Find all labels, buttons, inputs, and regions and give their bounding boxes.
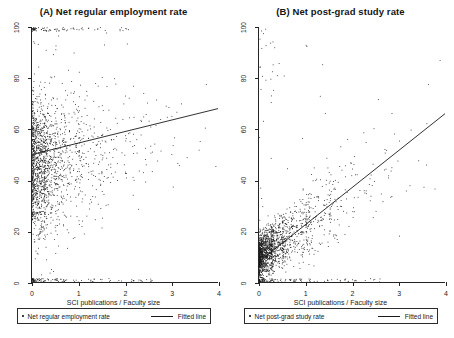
panel-a-xaxis-title: SCI publications / Faculty size bbox=[0, 299, 227, 306]
y-axis-tick-label: 40 bbox=[13, 171, 20, 191]
panel-b: (B) Net post-grad study rate 10080604020… bbox=[227, 0, 454, 338]
y-axis-tick-label: 0 bbox=[13, 273, 20, 293]
x-axis-tick bbox=[79, 282, 80, 286]
x-axis-tick-label: 2 bbox=[343, 290, 363, 297]
panel-b-plot-area: 10080604020001234 bbox=[258, 27, 445, 283]
y-axis-tick bbox=[255, 232, 259, 233]
y-axis-tick bbox=[28, 129, 32, 130]
y-axis-tick bbox=[255, 27, 259, 28]
x-axis-tick bbox=[399, 282, 400, 286]
x-axis-tick bbox=[259, 282, 260, 286]
x-axis-tick-label: 4 bbox=[209, 290, 229, 297]
fitted-line-icon bbox=[378, 316, 400, 317]
x-axis-tick-label: 3 bbox=[389, 290, 409, 297]
y-axis-tick bbox=[255, 78, 259, 79]
y-axis-tick-label: 0 bbox=[240, 273, 247, 293]
x-axis-tick-label: 0 bbox=[249, 290, 269, 297]
panel-b-plot-inner bbox=[259, 27, 445, 282]
scatter-dot-icon bbox=[249, 315, 251, 317]
panel-a-legend: Net regular employment rate Fitted line bbox=[17, 308, 211, 324]
y-axis-tick-label: 20 bbox=[13, 222, 20, 242]
panel-b-legend-line-entry: Fitted line bbox=[378, 313, 433, 320]
y-axis-tick-label: 80 bbox=[13, 68, 20, 88]
panel-b-title: (B) Net post-grad study rate bbox=[227, 6, 454, 17]
x-axis-tick-label: 0 bbox=[22, 290, 42, 297]
x-axis-tick-label: 1 bbox=[69, 290, 89, 297]
x-axis-tick bbox=[32, 282, 33, 286]
panel-b-legend: Net post-grad study rate Fitted line bbox=[244, 308, 438, 324]
panel-b-legend-marker-label: Net post-grad study rate bbox=[255, 313, 325, 320]
fitted-line bbox=[259, 114, 445, 262]
panel-a-legend-marker-label: Net regular employment rate bbox=[28, 313, 110, 320]
y-axis-tick-label: 40 bbox=[240, 171, 247, 191]
figure-canvas: (A) Net regular employment rate 10080604… bbox=[0, 0, 454, 338]
x-axis-tick bbox=[353, 282, 354, 286]
x-axis-tick bbox=[219, 282, 220, 286]
panel-b-legend-marker-entry: Net post-grad study rate bbox=[249, 313, 324, 320]
x-axis-tick-label: 2 bbox=[116, 290, 136, 297]
panel-a-legend-line-label: Fitted line bbox=[178, 313, 206, 320]
y-axis-tick bbox=[28, 78, 32, 79]
panel-a-plot-area: 10080604020001234 bbox=[31, 27, 218, 283]
y-axis-tick bbox=[28, 27, 32, 28]
x-axis-tick-label: 1 bbox=[296, 290, 316, 297]
y-axis-tick bbox=[255, 129, 259, 130]
panel-a-scatter-marks bbox=[32, 27, 218, 282]
x-axis-tick bbox=[172, 282, 173, 286]
fitted-line bbox=[32, 109, 218, 155]
y-axis-tick-label: 80 bbox=[240, 68, 247, 88]
y-axis-tick-label: 100 bbox=[13, 17, 20, 37]
panel-a-legend-marker-entry: Net regular employment rate bbox=[22, 313, 110, 320]
y-axis-tick-label: 20 bbox=[240, 222, 247, 242]
x-axis-tick bbox=[126, 282, 127, 286]
y-axis-tick bbox=[28, 232, 32, 233]
fitted-line-icon bbox=[151, 316, 173, 317]
panel-a-title: (A) Net regular employment rate bbox=[0, 6, 227, 17]
x-axis-tick bbox=[306, 282, 307, 286]
panel-b-scatter-marks bbox=[259, 27, 445, 282]
panel-a-plot-inner bbox=[32, 27, 218, 282]
panel-a-legend-line-entry: Fitted line bbox=[151, 313, 206, 320]
y-axis-tick-label: 60 bbox=[240, 119, 247, 139]
panel-a: (A) Net regular employment rate 10080604… bbox=[0, 0, 227, 338]
x-axis-tick-label: 4 bbox=[436, 290, 454, 297]
panel-b-legend-line-label: Fitted line bbox=[405, 313, 433, 320]
y-axis-tick bbox=[28, 181, 32, 182]
y-axis-tick-label: 100 bbox=[240, 17, 247, 37]
scatter-dot-icon bbox=[22, 315, 24, 317]
y-axis-tick-label: 60 bbox=[13, 119, 20, 139]
x-axis-tick bbox=[446, 282, 447, 286]
panel-b-xaxis-title: SCI publications / Faculty size bbox=[227, 299, 454, 306]
y-axis-tick bbox=[255, 181, 259, 182]
x-axis-tick-label: 3 bbox=[162, 290, 182, 297]
